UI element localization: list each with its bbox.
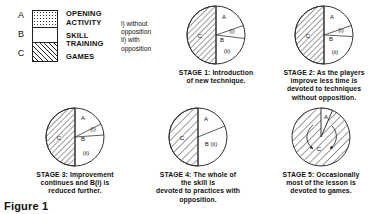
stage-2-label-a: A	[330, 14, 334, 20]
stage-1-label-a: A	[222, 14, 226, 20]
stage-3-cell: C A (i) B (ii) STAGE 3: Improvement cont…	[22, 106, 128, 196]
stage-4-label-b-ii: B (ii)	[205, 141, 217, 147]
stage-2-label-b-i: (i)	[338, 27, 343, 33]
stage-5-cell: A C STAGE 5: Occasionally most of the le…	[266, 106, 376, 196]
stage-4-pie-svg: C A B (ii)	[165, 106, 231, 168]
stage-3-label-b: B	[81, 136, 85, 142]
stage-1-cell: C A (i) B (ii) STAGE 1: Introduction of …	[163, 4, 269, 85]
legend-label-opening-activity: OPENING ACTIVITY	[66, 10, 122, 26]
stage-5-label-a: A	[324, 114, 328, 120]
stage-1-pie: C A (i) B (ii)	[183, 4, 249, 66]
stage-2-cell: C A (i) B (ii) STAGE 2: As the players i…	[272, 4, 376, 102]
stage-2-pie-svg: C A (i) B (ii)	[291, 4, 357, 66]
legend-bar	[32, 10, 58, 62]
legend-letter-c: C	[18, 48, 25, 58]
stage-5-pie: A C	[288, 106, 354, 168]
legend: A B C OPENING ACTIVITY SKILL TRAINING GA…	[14, 6, 160, 66]
stage-1-label-b-ii: (ii)	[224, 48, 231, 54]
figure-caption: Figure 1	[4, 200, 48, 212]
stage-4-label-a: A	[204, 116, 208, 122]
stage-3-label-c: C	[57, 135, 62, 141]
legend-swatch-opening-activity	[33, 11, 57, 28]
stage-4-label-c: C	[180, 135, 185, 141]
stage-1-label-b: B	[220, 37, 224, 43]
stage-4-caption: STAGE 4: The whole of the skill is devot…	[140, 171, 256, 204]
stage-3-pie: C A (i) B (ii)	[42, 106, 108, 168]
stage-3-label-a: A	[81, 115, 85, 121]
legend-labels: OPENING ACTIVITY SKILL TRAINING GAMES	[66, 8, 122, 64]
stage-3-caption: STAGE 3: Improvement continues and B(i) …	[22, 171, 128, 196]
legend-swatch-skill-training	[33, 28, 57, 44]
stage-1-caption: STAGE 1: Introduction of new technique.	[163, 69, 269, 85]
stage-3-label-b-ii: (ii)	[83, 150, 90, 156]
legend-letters: A B C	[14, 6, 28, 62]
legend-letter-a: A	[18, 10, 24, 20]
legend-label-skill-training: SKILL TRAINING	[66, 32, 122, 48]
stage-4-pie: C A B (ii)	[165, 106, 231, 168]
stage-3-pie-svg: C A (i) B (ii)	[42, 106, 108, 168]
stage-3-label-b-i: (i)	[90, 126, 95, 132]
stage-2-label-b-ii: (ii)	[332, 49, 339, 55]
stage-1-label-b-i: (i)	[229, 28, 234, 34]
stage-2-label-c: C	[306, 33, 311, 39]
stage-5-pie-svg: A C	[288, 106, 354, 168]
legend-swatch-games	[33, 43, 57, 61]
legend-label-games: GAMES	[66, 53, 122, 61]
stage-5-label-c: C	[317, 146, 322, 152]
stage-1-pie-svg: C A (i) B (ii)	[183, 4, 249, 66]
stage-4-cell: C A B (ii) STAGE 4: The whole of the ski…	[140, 106, 256, 204]
stage-2-pie: C A (i) B (ii)	[291, 4, 357, 66]
figure-page: A B C OPENING ACTIVITY SKILL TRAINING GA…	[0, 0, 377, 214]
legend-letter-b: B	[18, 29, 24, 39]
stage-2-caption: STAGE 2: As the players improve less tim…	[272, 69, 376, 102]
stage-2-label-b: B	[329, 36, 333, 42]
stage-1-label-c: C	[198, 33, 203, 39]
stage-5-caption: STAGE 5: Occasionally most of the lesson…	[266, 171, 376, 196]
